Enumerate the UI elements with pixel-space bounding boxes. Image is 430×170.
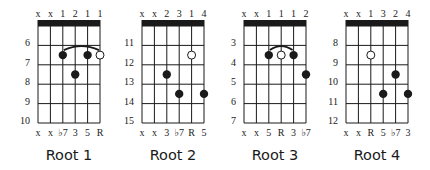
finger-label: 2	[393, 8, 398, 19]
finger-label: 4	[202, 8, 207, 19]
interval-label: x	[140, 127, 145, 138]
note-filled-dot	[265, 51, 273, 59]
finger-label: x	[356, 8, 361, 19]
interval-label: 3	[164, 127, 169, 138]
interval-label: 3	[406, 127, 411, 138]
finger-label: 1	[291, 8, 296, 19]
finger-label: 2	[164, 8, 169, 19]
note-filled-dot	[302, 70, 310, 78]
nut-bar	[142, 20, 204, 27]
finger-label: x	[242, 8, 247, 19]
interval-label: 3	[73, 127, 78, 138]
interval-label: 3	[291, 127, 296, 138]
interval-label: R	[97, 127, 104, 138]
finger-label: 4	[406, 8, 411, 19]
interval-label: R	[278, 127, 285, 138]
interval-label: 5	[85, 127, 90, 138]
note-filled-dot	[59, 51, 67, 59]
finger-label: x	[48, 8, 53, 19]
interval-label: 5	[266, 127, 271, 138]
fret-number-label: 12	[124, 57, 134, 68]
note-filled-dot	[391, 70, 399, 78]
note-filled-dot	[175, 90, 183, 98]
interval-label: ♭7	[391, 127, 401, 138]
fret-number-label: 9	[333, 57, 338, 68]
interval-label: 5	[202, 127, 207, 138]
interval-label: x	[48, 127, 53, 138]
interval-label: x	[242, 127, 247, 138]
finger-label: 1	[60, 8, 65, 19]
fret-number-label: 12	[328, 115, 338, 126]
fret-number-label: 11	[328, 96, 338, 107]
finger-label: 1	[279, 8, 284, 19]
finger-label: x	[36, 8, 41, 19]
finger-label: 3	[177, 8, 182, 19]
note-filled-dot	[200, 90, 208, 98]
fret-number-label: 13	[124, 76, 134, 87]
interval-label: x	[36, 127, 41, 138]
interval-label: ♭7	[174, 127, 184, 138]
fret-number-label: 8	[333, 37, 338, 48]
interval-label: ♭7	[58, 127, 68, 138]
finger-label: 3	[381, 8, 386, 19]
barre-arc	[64, 46, 99, 50]
chord-diagram-3: xx111234567xx5R3♭7Root 3	[231, 8, 311, 163]
note-filled-dot	[404, 90, 412, 98]
fret-number-label: 8	[25, 76, 30, 87]
finger-label: 2	[304, 8, 309, 19]
root-note-open-circle	[96, 51, 104, 59]
note-filled-dot	[163, 70, 171, 78]
nut-bar	[346, 20, 408, 27]
finger-label: x	[140, 8, 145, 19]
interval-label: ♭7	[301, 127, 311, 138]
chord-diagram-1: xx1211678910xx♭735RRoot 1	[20, 8, 104, 163]
fret-number-label: 10	[328, 76, 338, 87]
interval-label: x	[356, 127, 361, 138]
finger-label: 2	[73, 8, 78, 19]
finger-label: 1	[98, 8, 103, 19]
fret-number-label: 4	[231, 57, 236, 68]
interval-label: x	[254, 127, 259, 138]
note-filled-dot	[83, 51, 91, 59]
diagram-title: Root 1	[46, 147, 93, 163]
fret-number-label: 3	[231, 37, 236, 48]
finger-label: x	[254, 8, 259, 19]
chord-diagrams-canvas: xx1211678910xx♭735RRoot 1xx2314111213141…	[0, 0, 430, 170]
root-note-open-circle	[277, 51, 285, 59]
diagram-title: Root 4	[354, 147, 401, 163]
chord-diagram-figure: xx1211678910xx♭735RRoot 1xx2314111213141…	[0, 0, 430, 170]
diagram-title: Root 3	[252, 147, 299, 163]
fret-number-label: 15	[124, 115, 134, 126]
root-note-open-circle	[367, 51, 375, 59]
interval-label: R	[367, 127, 374, 138]
finger-label: 1	[189, 8, 194, 19]
interval-label: x	[344, 127, 349, 138]
fret-number-label: 9	[25, 96, 30, 107]
chord-diagram-2: xx23141112131415xx3♭7R5Root 2	[124, 8, 208, 163]
chord-diagram-4: xx132489101112xxR5♭73Root 4	[328, 8, 412, 163]
root-note-open-circle	[188, 51, 196, 59]
fret-number-label: 14	[124, 96, 134, 107]
fret-number-label: 6	[231, 96, 236, 107]
fret-number-label: 11	[124, 37, 134, 48]
interval-label: x	[152, 127, 157, 138]
interval-label: R	[188, 127, 195, 138]
finger-label: x	[344, 8, 349, 19]
nut-bar	[38, 20, 100, 27]
diagram-title: Root 2	[150, 147, 197, 163]
note-filled-dot	[289, 51, 297, 59]
fret-number-label: 5	[231, 76, 236, 87]
fret-number-label: 7	[25, 57, 30, 68]
note-filled-dot	[379, 90, 387, 98]
fret-number-label: 6	[25, 37, 30, 48]
interval-label: 5	[381, 127, 386, 138]
finger-label: 1	[85, 8, 90, 19]
nut-bar	[244, 20, 306, 27]
fret-number-label: 7	[231, 115, 236, 126]
finger-label: x	[152, 8, 157, 19]
finger-label: 1	[368, 8, 373, 19]
note-filled-dot	[71, 70, 79, 78]
fret-number-label: 10	[20, 115, 30, 126]
finger-label: 1	[266, 8, 271, 19]
